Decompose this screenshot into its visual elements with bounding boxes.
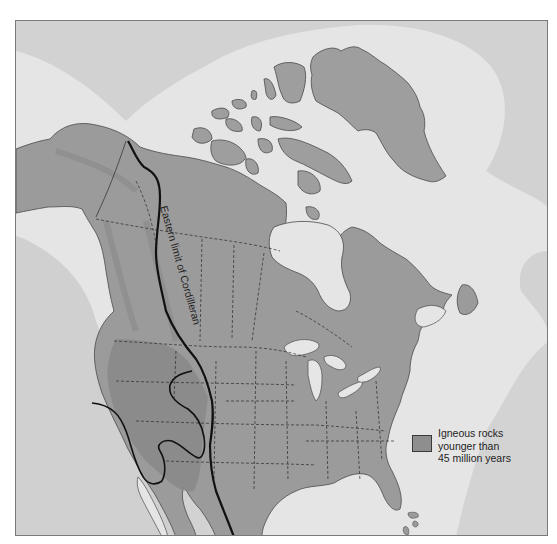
igneous-rocks-label: Igneous rocks younger than 45 million ye… xyxy=(438,427,511,465)
igneous-rocks-swatch xyxy=(412,435,432,452)
legend: Igneous rocks younger than 45 million ye… xyxy=(412,427,542,477)
